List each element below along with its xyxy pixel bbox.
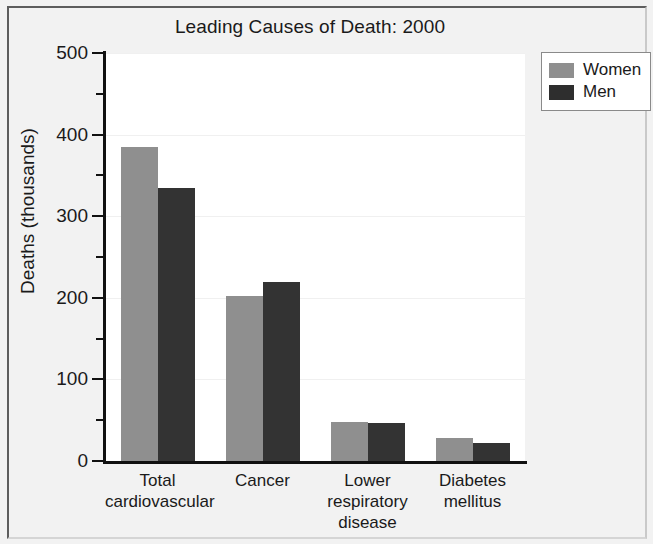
gridline [105, 135, 525, 136]
chart-page: Leading Causes of Death: 2000 0100200300… [0, 0, 653, 544]
bar-women-1 [226, 296, 263, 461]
page-title: Leading Causes of Death: 2000 [95, 16, 525, 38]
gridline [105, 53, 525, 54]
x-tick-label: Lowerrespiratorydisease [315, 470, 420, 533]
x-tick-label-line: mellitus [420, 491, 525, 512]
bar-men-1 [263, 282, 300, 461]
legend-label: Men [583, 82, 616, 102]
y-tick-minor [96, 93, 104, 95]
y-tick-label: 100 [4, 368, 88, 390]
bar-men-3 [473, 443, 510, 461]
y-tick-major [92, 378, 104, 380]
y-axis-title: Deaths (thousands) [17, 91, 39, 331]
x-tick-label: Totalcardiovascular [105, 470, 210, 512]
legend-item-women: Women [549, 59, 641, 81]
legend-swatch-men [549, 85, 574, 100]
bar-men-2 [368, 423, 405, 461]
y-tick-major [92, 460, 104, 462]
bar-women-2 [331, 422, 368, 461]
y-tick-minor [96, 256, 104, 258]
y-tick-minor [96, 174, 104, 176]
y-tick-label: 0 [4, 450, 88, 472]
legend-swatch-women [549, 63, 574, 78]
y-tick-major [92, 134, 104, 136]
legend: WomenMen [541, 52, 651, 111]
x-tick-label: Cancer [210, 470, 315, 491]
bar-women-3 [436, 438, 473, 461]
x-axis-line [103, 461, 527, 464]
x-tick-label-line: Lower [315, 470, 420, 491]
plot-area [105, 53, 525, 461]
bar-men-0 [158, 188, 195, 461]
y-tick-major [92, 52, 104, 54]
y-tick-minor [96, 338, 104, 340]
x-tick-label-line: disease [315, 512, 420, 533]
legend-label: Women [583, 60, 641, 80]
x-tick-label-line: respiratory [315, 491, 420, 512]
x-tick-label-line: cardiovascular [105, 491, 210, 512]
y-tick-major [92, 297, 104, 299]
y-tick-label: 500 [4, 42, 88, 64]
bar-women-0 [121, 147, 158, 461]
y-tick-minor [96, 419, 104, 421]
legend-item-men: Men [549, 81, 641, 103]
x-tick-label: Diabetesmellitus [420, 470, 525, 512]
y-tick-major [92, 215, 104, 217]
x-tick-label-line: Cancer [210, 470, 315, 491]
x-tick-label-line: Total [105, 470, 210, 491]
x-tick-label-line: Diabetes [420, 470, 525, 491]
